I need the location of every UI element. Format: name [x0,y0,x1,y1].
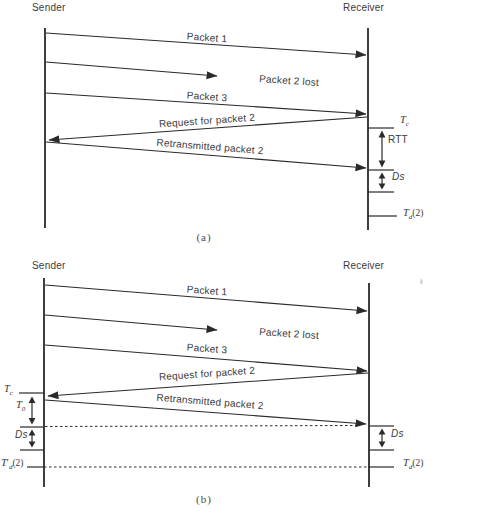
ds-left-label-b: Ds [15,430,28,440]
ds-label-a: Ds [392,172,405,182]
ds-right-double-arrow-b [379,429,386,448]
t0-label-b: T0 [16,400,25,413]
tc-label-b: Tc [4,384,13,397]
tc-label-a: Tc [400,115,409,128]
t0-double-arrow-b [29,397,36,425]
caption-b: (b) [196,494,212,505]
artifact-speck [420,279,423,284]
timing-diagram-lines [0,0,486,514]
panel-a [45,28,397,230]
packet-timing-figure: Sender Receiver Packet 1 Packet 2 lost P… [0,0,486,514]
arrival-dashed-line-b [45,426,356,427]
sender-label-a: Sender [32,3,65,13]
ds-left-double-arrow-b [29,430,36,448]
rtt-double-arrow-a [379,131,386,168]
td2-label-b: Td(2) [403,458,423,471]
packet2-lost-arrow-b [45,315,217,330]
receiver-label-b: Receiver [343,261,384,271]
panel-b [19,278,394,487]
td2-label-a: Td(2) [403,208,423,221]
tprimed2-label-b: T′d(2) [1,458,24,471]
packet2-lost-arrow-a [46,62,217,76]
ds-right-label-b: Ds [391,429,404,439]
rtt-label-a: RTT [388,135,408,145]
receiver-label-a: Receiver [343,3,384,13]
ds-double-arrow-a [379,173,386,190]
caption-a: (a) [196,232,211,243]
sender-label-b: Sender [32,261,65,271]
